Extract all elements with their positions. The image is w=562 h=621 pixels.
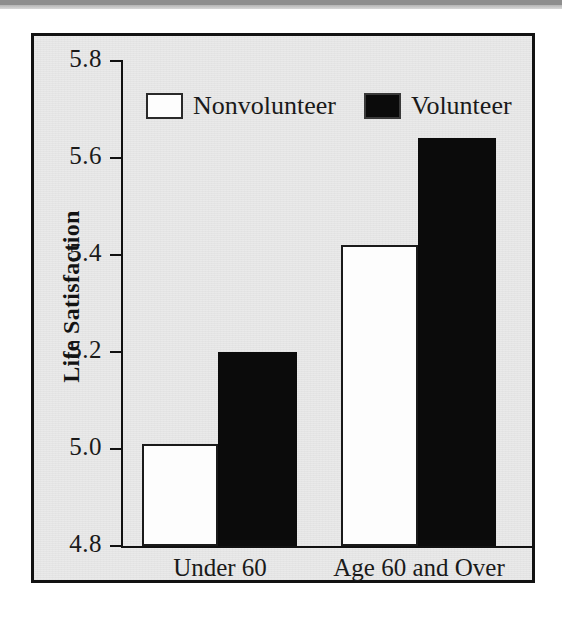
- legend-entry-volunteer[interactable]: Volunteer: [364, 91, 512, 121]
- legend-label-volunteer: Volunteer: [411, 91, 512, 121]
- scan-artifact-band: [0, 0, 562, 9]
- x-category-label-under60: Under 60: [140, 554, 300, 582]
- x-category-label-age60over: Age 60 and Over: [331, 554, 507, 582]
- bar-under60-volunteer[interactable]: [218, 352, 297, 546]
- scan-artifact-dark-stripe: [0, 0, 562, 5]
- bar-age60over-volunteer[interactable]: [418, 138, 496, 546]
- plot-area: 5.8 5.6 5.4 5.2 5.0 4.8 Life Satisfactio…: [34, 36, 538, 586]
- legend: Nonvolunteer Volunteer: [146, 91, 512, 121]
- legend-label-nonvolunteer: Nonvolunteer: [193, 91, 336, 121]
- figure-frame: 5.8 5.6 5.4 5.2 5.0 4.8 Life Satisfactio…: [31, 33, 535, 583]
- legend-entry-nonvolunteer[interactable]: Nonvolunteer: [146, 91, 336, 121]
- legend-swatch-nonvolunteer-icon: [146, 93, 183, 119]
- legend-swatch-volunteer-icon: [364, 93, 401, 119]
- bar-age60over-nonvolunteer[interactable]: [341, 245, 418, 546]
- bar-under60-nonvolunteer[interactable]: [142, 444, 218, 546]
